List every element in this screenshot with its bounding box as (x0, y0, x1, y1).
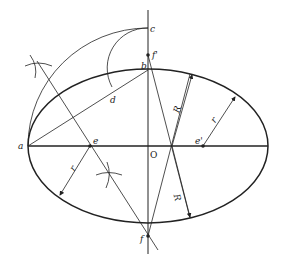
arc-c-d (107, 28, 148, 87)
arc-a-c (28, 28, 148, 146)
label-c: c (150, 24, 155, 34)
label-d: d (110, 95, 116, 105)
perpendicular-bisector (37, 61, 158, 250)
point-e (88, 144, 92, 148)
label-O: O (150, 150, 157, 160)
label-e-prime: e' (195, 136, 203, 146)
label-f-prime: f' (151, 50, 158, 60)
point-f (146, 234, 150, 238)
label-e: e (93, 136, 98, 146)
point-f-prime (146, 53, 150, 57)
dimension-R-lower (172, 146, 190, 217)
bisector-arc-mark-bottom (96, 162, 122, 188)
label-b: b (141, 61, 147, 71)
ellipse-construction-diagram: c f' b d a e e' O f R R r r (0, 0, 281, 269)
label-f: f (139, 234, 145, 244)
diagram-canvas: c f' b d a e e' O f R R r r (0, 0, 281, 269)
line-a-b (28, 70, 148, 146)
bisector-arc-mark-top (25, 55, 52, 78)
label-R-lower: R (171, 192, 183, 202)
dimension-r-right (203, 97, 235, 146)
label-r-left: r (68, 163, 79, 173)
label-a: a (18, 141, 23, 151)
